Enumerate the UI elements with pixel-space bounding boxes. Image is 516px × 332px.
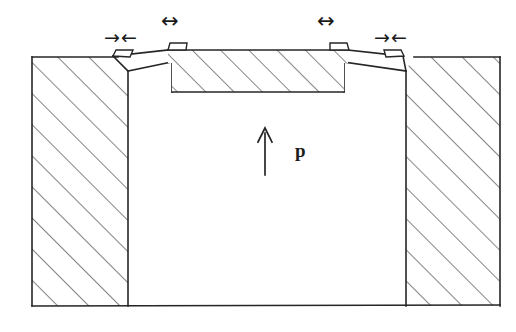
tab-outer-right [384,50,404,57]
diagram-canvas: →← ↔ ↔ →← p [0,0,516,332]
left-span-arrow-icon: ↔ [161,11,179,32]
right-hatched-block [406,57,500,306]
cross-section-figure [0,0,516,332]
pressure-arrow-icon [258,128,272,175]
base-line [32,305,500,306]
right-span-arrow-icon: ↔ [317,11,335,32]
tab-outer-left [113,50,133,57]
tab-inner-left [168,43,187,50]
pressure-label: p [295,140,306,162]
right-converging-arrows-icon: →← [374,28,408,47]
left-hatched-block [32,57,128,306]
tab-inner-right [330,43,349,50]
left-converging-arrows-icon: →← [104,28,138,47]
cover-plate [168,50,348,92]
